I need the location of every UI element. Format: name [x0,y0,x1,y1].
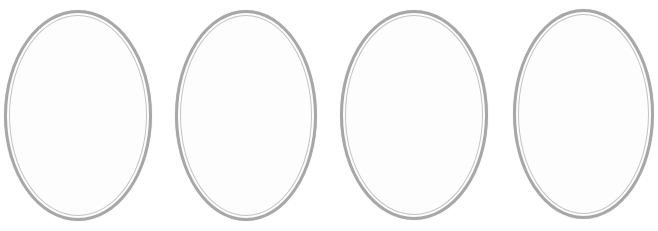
oval-1 [4,10,152,221]
oval-2 [175,10,317,221]
oval-4 [513,9,654,219]
oval-3-inner-ring [345,15,483,215]
label-sheet [0,0,658,231]
oval-2-inner-ring [180,15,312,216]
oval-4-inner-ring [518,14,649,214]
oval-1-inner-ring [9,15,147,216]
oval-3 [340,10,488,220]
